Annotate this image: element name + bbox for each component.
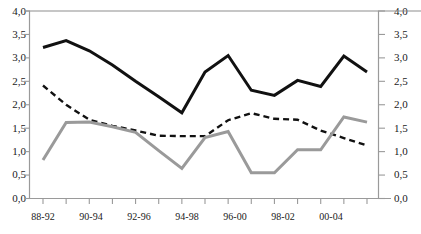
line-chart: 4,0 3,5 3,0 2,5 2,0 1,5 1,0 0,5 0,0 4,0 … — [0, 0, 421, 234]
plot-area — [0, 0, 421, 234]
x-axis-ticks — [43, 199, 367, 205]
solid-gray-series — [43, 117, 367, 173]
data-series-layer — [43, 41, 367, 173]
chart-frame — [26, 11, 421, 199]
solid-black-series — [43, 41, 367, 113]
